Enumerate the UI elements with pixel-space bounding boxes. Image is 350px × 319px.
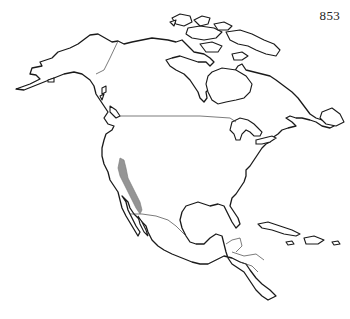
hispaniola (304, 236, 324, 244)
hudson-bay (206, 68, 252, 104)
bc-island (102, 86, 106, 94)
puerto-rico (332, 241, 340, 245)
arctic-island (194, 16, 210, 26)
baffin-island (226, 30, 280, 56)
alaska-canada-border (96, 41, 118, 74)
jamaica (286, 241, 294, 245)
arctic-island (200, 42, 222, 52)
bc-island (100, 94, 104, 100)
mainland-coastline (16, 34, 334, 300)
canada-usa-border (120, 116, 236, 122)
alaska-island (48, 78, 54, 82)
southampton-island (232, 52, 248, 60)
cuba (258, 222, 300, 236)
north-america-map (0, 0, 350, 319)
vancouver-island (110, 106, 120, 118)
lake-erie-ontario (256, 136, 276, 144)
arctic-island (214, 22, 232, 30)
central-america-borders (226, 238, 264, 272)
newfoundland (320, 108, 344, 126)
greenland-edge (170, 20, 176, 26)
